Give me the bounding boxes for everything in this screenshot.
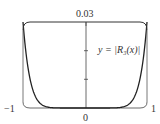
curve-label: y = |R₃(x)| [98, 45, 140, 55]
error-curve [23, 22, 147, 108]
corner-br [140, 102, 147, 108]
corner-bl [23, 102, 30, 108]
x-min-label: −1 [4, 104, 15, 114]
y-max-label: 0.03 [76, 9, 94, 19]
x-zero-label: 0 [83, 113, 88, 123]
x-max-label: 1 [151, 104, 156, 114]
